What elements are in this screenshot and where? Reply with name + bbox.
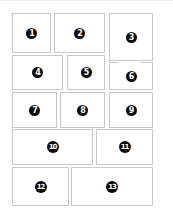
panel-number-badge: 5 xyxy=(81,67,92,78)
panel-12: 12 xyxy=(12,167,69,206)
panel-number-badge: 1 xyxy=(26,28,37,39)
panel-8: 8 xyxy=(60,92,105,128)
panel-number-badge: 7 xyxy=(29,105,40,116)
panel-11: 11 xyxy=(96,129,153,165)
panel-number-badge: 12 xyxy=(35,181,47,193)
panel-number-badge: 4 xyxy=(32,67,43,78)
panel-6: 6 xyxy=(109,62,153,90)
top-divider xyxy=(0,0,173,1)
panel-number-badge: 9 xyxy=(126,105,137,116)
panel-number-badge: 2 xyxy=(74,28,85,39)
panel-4: 4 xyxy=(12,55,63,90)
panel-13: 13 xyxy=(71,167,153,206)
panel-1: 1 xyxy=(12,13,51,53)
panel-7: 7 xyxy=(12,92,57,128)
panel-3: 3 xyxy=(109,13,153,61)
panel-number-badge: 3 xyxy=(126,32,137,43)
panel-5: 5 xyxy=(67,55,105,90)
panel-number-badge: 13 xyxy=(106,181,118,193)
panel-6-top-gap xyxy=(118,61,141,63)
panel-9: 9 xyxy=(109,92,153,128)
panel-number-badge: 10 xyxy=(47,141,59,153)
panel-2: 2 xyxy=(54,13,105,53)
panel-number-badge: 11 xyxy=(119,141,131,153)
panel-number-badge: 6 xyxy=(126,71,137,82)
panel-number-badge: 8 xyxy=(77,105,88,116)
panel-10: 10 xyxy=(12,129,93,165)
